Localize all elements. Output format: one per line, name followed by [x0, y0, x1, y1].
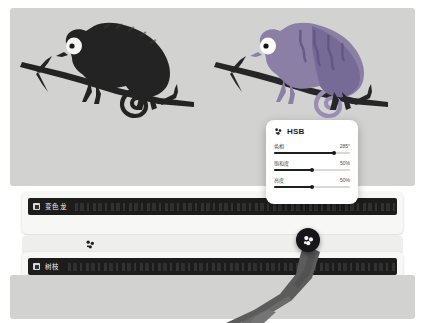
saturation-slider-value: 50% — [340, 160, 350, 166]
pupil-right — [263, 43, 268, 48]
saturation-slider-fill — [274, 169, 312, 171]
chameleon-body-left — [56, 23, 170, 110]
saturation-slider-labels: 饱和度 50% — [274, 160, 350, 166]
brightness-slider-group: 亮度 50% — [274, 177, 350, 188]
chameleon-body-right — [250, 23, 364, 110]
brightness-slider-labels: 亮度 50% — [274, 177, 350, 183]
hue-slider-thumb[interactable] — [332, 151, 336, 155]
saturation-slider-label: 饱和度 — [274, 160, 289, 166]
brightness-slider-track[interactable] — [274, 186, 350, 188]
hue-slider-group: 色相 285° — [274, 143, 350, 154]
hue-slider-value: 285° — [340, 143, 350, 149]
hue-slider-track[interactable] — [274, 152, 350, 154]
saturation-slider-thumb[interactable] — [310, 168, 314, 172]
app-root: 变色龙 树枝 — [0, 0, 425, 323]
chameleon-illustration-dark[interactable] — [18, 10, 198, 122]
hue-slider-fill — [274, 152, 334, 154]
hue-slider-label: 色相 — [274, 143, 284, 149]
palette-icon — [85, 239, 96, 250]
color-drag-handle[interactable] — [296, 228, 320, 252]
chameleon-illustration-purple[interactable] — [212, 10, 392, 122]
hue-slider-labels: 色相 285° — [274, 143, 350, 149]
layer-header-branch[interactable]: 树枝 — [28, 258, 397, 275]
hsb-panel-title: HSB — [287, 127, 305, 136]
visibility-checkbox-chameleon[interactable] — [33, 203, 40, 210]
palette-icon — [274, 127, 283, 136]
layer-title-chameleon: 变色龙 — [45, 203, 67, 211]
layer-ghost-text — [68, 263, 397, 271]
palette-icon — [302, 234, 315, 247]
canvas-artboard-lower[interactable] — [10, 275, 415, 319]
pupil-left — [69, 43, 74, 48]
saturation-slider-track[interactable] — [274, 169, 350, 171]
brightness-slider-thumb[interactable] — [310, 185, 314, 189]
brightness-slider-label: 亮度 — [274, 177, 284, 183]
visibility-checkbox-branch[interactable] — [33, 263, 40, 270]
brightness-slider-value: 50% — [340, 177, 350, 183]
hsb-color-panel[interactable]: HSB 色相 285° 饱和度 50% — [266, 120, 358, 204]
saturation-slider-group: 饱和度 50% — [274, 160, 350, 171]
hsb-panel-header: HSB — [274, 127, 350, 136]
layer-title-branch: 树枝 — [45, 263, 60, 271]
brightness-slider-fill — [274, 186, 312, 188]
